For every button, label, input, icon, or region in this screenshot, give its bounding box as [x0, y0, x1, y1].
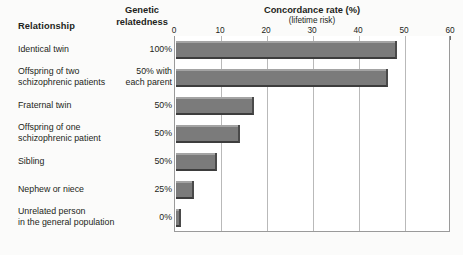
bar: [176, 97, 254, 115]
chart-title: Concordance rate (%): [174, 5, 450, 15]
x-tick-label-30: 30: [307, 25, 316, 35]
gridline-40: [359, 36, 360, 231]
bar-highlight: [176, 69, 386, 71]
category-label: Sibling: [18, 156, 44, 167]
category-label: Identical twin: [18, 44, 69, 55]
gridline-30: [313, 36, 314, 231]
category-label: Offspring of one schizophrenic patient: [18, 122, 101, 143]
bar: [176, 41, 397, 59]
gridline-50: [405, 36, 406, 231]
bar-highlight: [176, 97, 252, 99]
x-tick-label-20: 20: [261, 25, 270, 35]
column-header-relationship: Relationship: [18, 21, 75, 31]
bar: [176, 209, 181, 227]
genetic-relatedness-value: 50% with each parent: [108, 66, 172, 87]
bar: [176, 69, 388, 87]
genetic-relatedness-value: 50%: [108, 128, 172, 139]
chart-subtitle: (lifetime risk): [174, 16, 450, 25]
x-tick-60: [450, 36, 451, 40]
genetic-relatedness-value: 100%: [108, 44, 172, 55]
category-label: Nephew or niece: [18, 184, 84, 195]
chart-figure: Relationship Genetic relatedness Concord…: [0, 0, 463, 255]
x-tick-label-10: 10: [215, 25, 224, 35]
category-label: Offspring of two schizophrenic patients: [18, 66, 105, 87]
plot-area: [174, 36, 450, 232]
bar-highlight: [176, 125, 238, 127]
bar: [176, 153, 217, 171]
x-tick-label-40: 40: [353, 25, 362, 35]
category-label: Fraternal twin: [18, 100, 71, 111]
genetic-relatedness-value: 50%: [108, 156, 172, 167]
genetic-relatedness-value: 50%: [108, 100, 172, 111]
x-tick-label-60: 60: [445, 25, 454, 35]
category-label: Unrelated person in the general populati…: [18, 206, 114, 227]
bar-highlight: [176, 181, 192, 183]
bar-highlight: [176, 41, 395, 43]
bar: [176, 181, 194, 199]
x-tick-label-0: 0: [172, 25, 177, 35]
genetic-relatedness-value: 0%: [108, 212, 172, 223]
bar-highlight: [176, 153, 215, 155]
x-tick-label-50: 50: [399, 25, 408, 35]
bar: [176, 125, 240, 143]
genetic-relatedness-value: 25%: [108, 184, 172, 195]
bar-highlight: [176, 209, 179, 211]
gridline-20: [267, 36, 268, 231]
column-header-genetic-relatedness: Genetic relatedness: [112, 5, 172, 28]
